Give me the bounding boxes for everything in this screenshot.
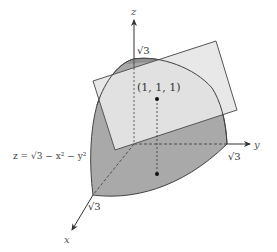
point-1-1-1 — [155, 97, 159, 101]
x-axis-label: x — [64, 234, 70, 245]
point-label: (1, 1, 1) — [137, 81, 181, 94]
point-1-1-0 — [155, 172, 159, 176]
z-tick-sqrt3: √3 — [137, 45, 150, 56]
surface-equation-label: z = √3 − x² − y² — [13, 151, 87, 161]
y-axis-label: y — [253, 139, 260, 150]
hemisphere-tangent-plane-diagram: z y x √3 √3 √3 (1, 1, 1) z = √3 − x² − y… — [0, 0, 277, 252]
x-tick-sqrt3: √3 — [88, 201, 101, 212]
y-tick-sqrt3: √3 — [228, 151, 241, 162]
z-axis-label: z — [130, 6, 137, 17]
